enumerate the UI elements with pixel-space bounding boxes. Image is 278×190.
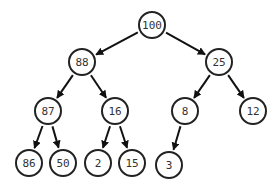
tree-node: 3 <box>156 152 182 178</box>
edge-arrow <box>103 126 110 148</box>
edge-arrow <box>228 75 244 98</box>
node-label: 15 <box>125 157 138 170</box>
edge-arrow <box>166 33 205 55</box>
node-label: 2 <box>95 157 102 170</box>
node-label: 87 <box>41 105 54 118</box>
tree-node: 12 <box>240 98 266 124</box>
node-label: 100 <box>142 19 162 32</box>
tree-node: 86 <box>16 150 42 176</box>
tree-node: 87 <box>35 98 61 124</box>
edge-arrow <box>52 126 58 147</box>
node-label: 88 <box>75 56 88 69</box>
edge-arrow <box>34 126 42 148</box>
tree-node: 50 <box>50 150 76 176</box>
tree-node: 15 <box>119 150 145 176</box>
node-label: 25 <box>212 56 225 69</box>
edge-arrow <box>174 126 181 149</box>
edge-arrow <box>96 32 138 54</box>
tree-node: 100 <box>139 12 165 38</box>
edge-arrow <box>91 75 106 97</box>
tree-node: 8 <box>172 98 198 124</box>
tree-diagram: 1008825871681286502153 <box>0 0 278 190</box>
edge-arrow <box>194 75 210 98</box>
edge-arrow <box>120 126 127 148</box>
node-label: 8 <box>182 105 189 118</box>
node-label: 86 <box>22 157 35 170</box>
tree-node: 16 <box>102 98 128 124</box>
node-label: 3 <box>166 159 173 172</box>
node-label: 12 <box>246 105 259 118</box>
tree-node: 88 <box>69 49 95 75</box>
nodes-layer: 1008825871681286502153 <box>16 12 266 178</box>
tree-node: 25 <box>206 49 232 75</box>
tree-node: 2 <box>85 150 111 176</box>
edge-arrow <box>57 75 73 98</box>
node-label: 50 <box>56 157 69 170</box>
node-label: 16 <box>108 105 121 118</box>
